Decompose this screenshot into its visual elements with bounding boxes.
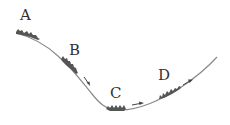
label-c: C — [110, 84, 121, 102]
arrow-c-icon — [132, 102, 144, 106]
arrow-d-icon — [183, 80, 193, 86]
diagram-canvas: A B C D — [0, 0, 230, 125]
label-d: D — [158, 66, 170, 84]
patch-c — [106, 105, 126, 111]
patch-a — [16, 29, 40, 40]
patch-d — [159, 86, 181, 99]
label-a: A — [19, 6, 31, 24]
label-b: B — [69, 41, 80, 59]
